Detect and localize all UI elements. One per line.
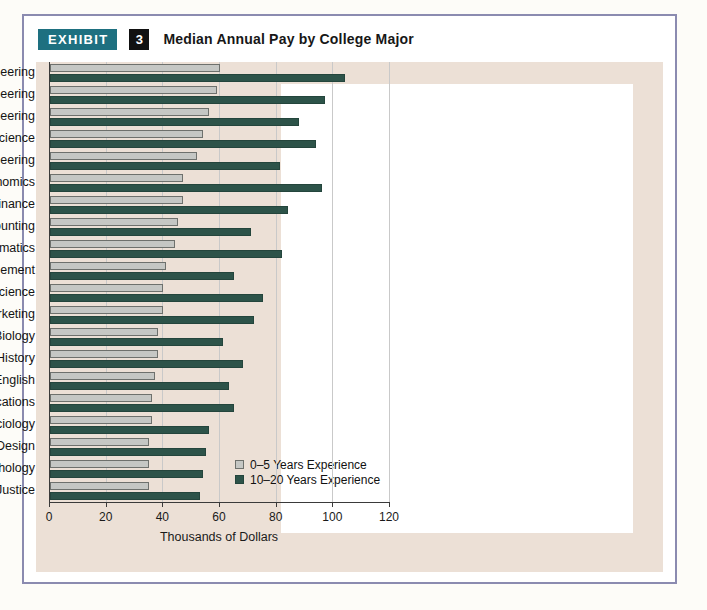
bar-0-5-years — [50, 218, 178, 226]
chart-category-row: Accounting — [49, 216, 389, 238]
x-axis-tick-label: 100 — [322, 510, 342, 524]
bar-10-20-years — [50, 272, 234, 280]
bar-0-5-years — [50, 394, 152, 402]
bar-10-20-years — [50, 382, 229, 390]
x-axis-tick-label: 120 — [379, 510, 399, 524]
x-axis-tick — [219, 502, 220, 507]
x-axis-title: Thousands of Dollars — [49, 530, 389, 544]
chart-category-row: Computer Engineering — [49, 62, 389, 84]
y-axis-category-label: History — [0, 351, 35, 365]
chart-category-row: Sociology — [49, 414, 389, 436]
y-axis-category-label: Computer Science — [0, 131, 35, 145]
y-axis-category-label: Accounting — [0, 219, 35, 233]
y-axis-category-label: Economics — [0, 175, 35, 189]
y-axis-category-label: Mechanical Engineering — [0, 109, 35, 123]
y-axis-category-label: Communications — [0, 395, 35, 409]
x-axis-tick-label: 0 — [46, 510, 53, 524]
chart-category-row: Economics — [49, 172, 389, 194]
chart-category-row: Computer Science — [49, 128, 389, 150]
chart-category-row: Graphic Design — [49, 436, 389, 458]
bar-0-5-years — [50, 460, 149, 468]
bar-0-5-years — [50, 196, 183, 204]
bar-10-20-years — [50, 470, 203, 478]
x-axis-tick-label: 40 — [156, 510, 169, 524]
chart-category-row: History — [49, 348, 389, 370]
bar-10-20-years — [50, 448, 206, 456]
bar-10-20-years — [50, 338, 223, 346]
bar-0-5-years — [50, 482, 149, 490]
chart-category-row: Communications — [49, 392, 389, 414]
x-axis-tick — [49, 502, 50, 507]
y-axis-category-label: Criminal Justice — [0, 483, 35, 497]
x-axis-tick — [332, 502, 333, 507]
exhibit-frame: EXHIBIT 3 Median Annual Pay by College M… — [22, 14, 677, 584]
bar-10-20-years — [50, 162, 280, 170]
chart-category-row: Mathematics — [49, 238, 389, 260]
bar-10-20-years — [50, 294, 263, 302]
bar-10-20-years — [50, 96, 325, 104]
bar-10-20-years — [50, 250, 282, 258]
bar-0-5-years — [50, 306, 163, 314]
chart-panel: 0–5 Years Experience10–20 Years Experien… — [36, 62, 663, 572]
x-axis-tick-label: 20 — [99, 510, 112, 524]
y-axis-category-label: Political Science — [0, 285, 35, 299]
bar-0-5-years — [50, 328, 158, 336]
chart-category-row: Finance — [49, 194, 389, 216]
y-axis-category-label: Mathematics — [0, 241, 35, 255]
exhibit-number-badge: 3 — [129, 29, 149, 50]
bar-0-5-years — [50, 174, 183, 182]
y-axis-category-label: Electrical Engineering — [0, 87, 35, 101]
bar-10-20-years — [50, 492, 200, 500]
y-axis-category-label: Sociology — [0, 417, 35, 431]
exhibit-title: Median Annual Pay by College Major — [163, 31, 414, 47]
chart-category-row: Psychology — [49, 458, 389, 480]
bar-0-5-years — [50, 240, 175, 248]
bar-0-5-years — [50, 152, 197, 160]
x-axis-tick — [162, 502, 163, 507]
bar-10-20-years — [50, 228, 251, 236]
chart-category-row: Biology — [49, 326, 389, 348]
bar-10-20-years — [50, 74, 345, 82]
x-axis-tick-label: 60 — [212, 510, 225, 524]
bar-0-5-years — [50, 64, 220, 72]
y-axis-category-label: Management — [0, 263, 35, 277]
y-axis-category-label: Graphic Design — [0, 439, 35, 453]
bar-10-20-years — [50, 184, 322, 192]
bar-0-5-years — [50, 86, 217, 94]
bar-10-20-years — [50, 140, 316, 148]
y-axis-category-label: English — [0, 373, 35, 387]
x-axis-tick — [276, 502, 277, 507]
chart-category-row: Civil Engineering — [49, 150, 389, 172]
bar-10-20-years — [50, 404, 234, 412]
chart-category-row: Criminal Justice — [49, 480, 389, 502]
bar-0-5-years — [50, 108, 209, 116]
chart-category-row: Electrical Engineering — [49, 84, 389, 106]
chart-bars-region: 0–5 Years Experience10–20 Years Experien… — [49, 62, 389, 502]
chart-category-row: Political Science — [49, 282, 389, 304]
y-axis-category-label: Civil Engineering — [0, 153, 35, 167]
bar-10-20-years — [50, 360, 243, 368]
gridline — [389, 62, 390, 502]
chart-category-row: Mechanical Engineering — [49, 106, 389, 128]
exhibit-badge: EXHIBIT — [38, 29, 117, 50]
chart-category-row: Marketing — [49, 304, 389, 326]
bar-10-20-years — [50, 426, 209, 434]
exhibit-header: EXHIBIT 3 Median Annual Pay by College M… — [24, 16, 675, 62]
y-axis-category-label: Finance — [0, 197, 35, 211]
bar-10-20-years — [50, 118, 299, 126]
bar-0-5-years — [50, 284, 163, 292]
bar-0-5-years — [50, 372, 155, 380]
bar-10-20-years — [50, 316, 254, 324]
bar-0-5-years — [50, 262, 166, 270]
y-axis-category-label: Biology — [0, 329, 35, 343]
bar-0-5-years — [50, 130, 203, 138]
chart-category-row: Management — [49, 260, 389, 282]
chart-category-row: English — [49, 370, 389, 392]
y-axis-category-label: Computer Engineering — [0, 65, 35, 79]
bar-10-20-years — [50, 206, 288, 214]
y-axis-category-label: Marketing — [0, 307, 35, 321]
bar-0-5-years — [50, 416, 152, 424]
x-axis-tick-label: 80 — [269, 510, 282, 524]
bar-0-5-years — [50, 350, 158, 358]
x-axis-tick — [106, 502, 107, 507]
